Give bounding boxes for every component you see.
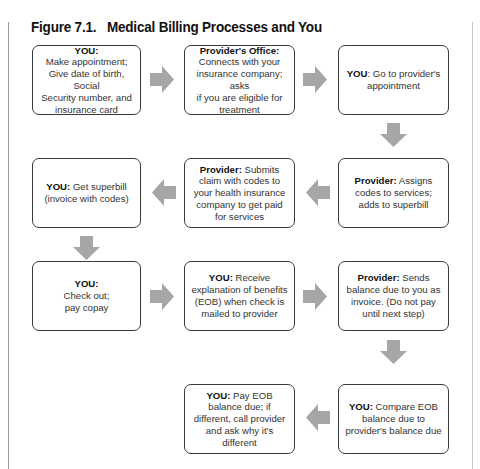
left-border-line <box>8 22 9 469</box>
step-actor: YOU <box>347 68 368 79</box>
right-border-line <box>472 22 473 469</box>
step-actor: YOU: <box>206 390 230 401</box>
step-actor: Provider's Office: <box>200 45 280 56</box>
arrow-right-icon <box>150 66 174 93</box>
step-5-submits-claim: Provider: Submits claim with codes to yo… <box>184 158 295 228</box>
arrow-left-icon <box>306 179 330 206</box>
step-actor: YOU: <box>75 278 99 289</box>
figure-title: Figure 7.1. Medical Billing Processes an… <box>31 20 322 36</box>
step-actor: Provider: <box>358 272 400 283</box>
step-6-get-superbill: YOU: Get superbill (invoice with codes) <box>32 158 141 228</box>
arrow-down-icon <box>380 340 407 364</box>
step-actor: YOU: <box>46 181 70 192</box>
arrow-left-icon <box>152 179 176 206</box>
step-3-go-to-appointment: YOU: Go to provider's appointment <box>338 45 449 115</box>
step-actor: YOU: <box>209 272 233 283</box>
arrow-down-icon <box>380 123 407 147</box>
arrow-right-icon <box>150 283 174 310</box>
step-9-sends-balance: Provider: Sends balance due to you as in… <box>338 261 449 331</box>
step-2-providers-office: Provider's Office: Connects with your in… <box>184 45 295 115</box>
step-1-make-appointment: YOU: Make appointment; Give date of birt… <box>32 45 141 115</box>
step-4-assigns-codes: Provider: Assigns codes to services; add… <box>338 158 449 228</box>
step-actor: YOU: <box>349 401 373 412</box>
arrow-right-icon <box>303 283 327 310</box>
step-10-compare-eob: YOU: Compare EOB balance due to provider… <box>338 384 449 454</box>
step-actor: Provider: <box>355 175 397 186</box>
arrow-left-icon <box>306 404 330 431</box>
step-actor: YOU: <box>75 45 99 56</box>
step-7-check-out: YOU: Check out; pay copay <box>32 261 141 331</box>
step-actor: Provider: <box>200 164 242 175</box>
step-11-pay-eob-balance: YOU: Pay EOB balance due; if different, … <box>184 384 295 454</box>
arrow-down-icon <box>73 236 100 260</box>
arrow-right-icon <box>303 66 327 93</box>
step-8-receive-eob: YOU: Receive explanation of benefits (EO… <box>184 261 295 331</box>
